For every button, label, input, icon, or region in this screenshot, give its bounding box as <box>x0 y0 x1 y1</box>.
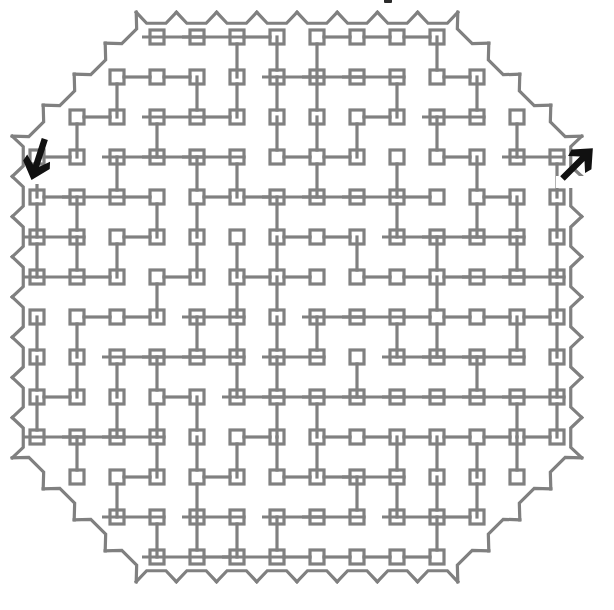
cropped-glyph-mark <box>384 0 392 3</box>
maze-figure <box>0 0 614 610</box>
maze-drawing <box>0 0 614 610</box>
exit-gap <box>556 176 586 188</box>
